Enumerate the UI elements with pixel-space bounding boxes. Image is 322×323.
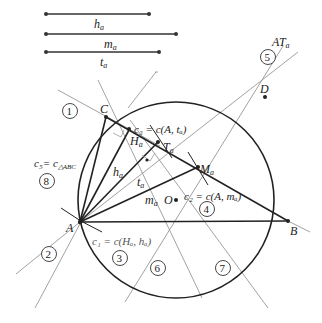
- label-t-a: ta: [100, 55, 107, 70]
- step-3: 3: [113, 251, 128, 266]
- point-foot: [145, 158, 148, 161]
- construction-diagram: ha ma ta: [0, 0, 322, 323]
- step-5: 5: [261, 50, 276, 65]
- point-T-a: [156, 140, 160, 144]
- step-4: 4: [200, 202, 215, 217]
- side-AB: [80, 221, 288, 222]
- label-inner-h-a: ha: [113, 165, 123, 180]
- label-h-a: ha: [94, 17, 104, 32]
- annotation-c5: c₅= c△ABC: [34, 157, 76, 171]
- label-B: B: [290, 224, 298, 238]
- svg-text:4: 4: [204, 203, 210, 215]
- step-1: 1: [63, 104, 78, 119]
- step-2: 2: [42, 247, 57, 262]
- annotation-AT-a: ATa: [271, 35, 290, 50]
- svg-text:8: 8: [44, 175, 50, 187]
- label-inner-t-a: ta: [137, 175, 144, 190]
- point-A: [78, 220, 82, 224]
- annotation-c3: c₃ = c(A, tₐ): [134, 123, 187, 136]
- annotation-c2: c₂ = c(A, mₐ): [184, 190, 242, 203]
- svg-text:1: 1: [67, 105, 73, 117]
- step-7: 7: [216, 261, 231, 276]
- svg-text:7: 7: [220, 262, 226, 274]
- label-D: D: [259, 82, 269, 96]
- step-8: 8: [40, 174, 55, 189]
- point-H-a: [127, 127, 131, 131]
- svg-text:5: 5: [265, 51, 271, 63]
- side-AC: [80, 117, 106, 222]
- line-7: [130, 120, 268, 308]
- step-6: 6: [151, 261, 166, 276]
- line-3: [35, 220, 82, 308]
- svg-text:3: 3: [117, 252, 123, 264]
- label-inner-m-a: ma: [145, 193, 158, 208]
- svg-text:2: 2: [46, 248, 52, 260]
- point-O: [174, 198, 178, 202]
- label-A: A: [65, 221, 74, 235]
- line-top-2: [128, 72, 156, 108]
- label-T-a: Ta: [163, 140, 174, 155]
- svg-text:6: 6: [155, 262, 161, 274]
- label-C: C: [100, 102, 109, 116]
- label-m-a: ma: [104, 37, 117, 52]
- annotation-c1: c₁ = c(Hₐ, hₐ): [92, 235, 152, 248]
- label-M-a: Ma: [199, 162, 214, 177]
- point-B: [286, 219, 290, 223]
- label-O: O: [164, 193, 173, 207]
